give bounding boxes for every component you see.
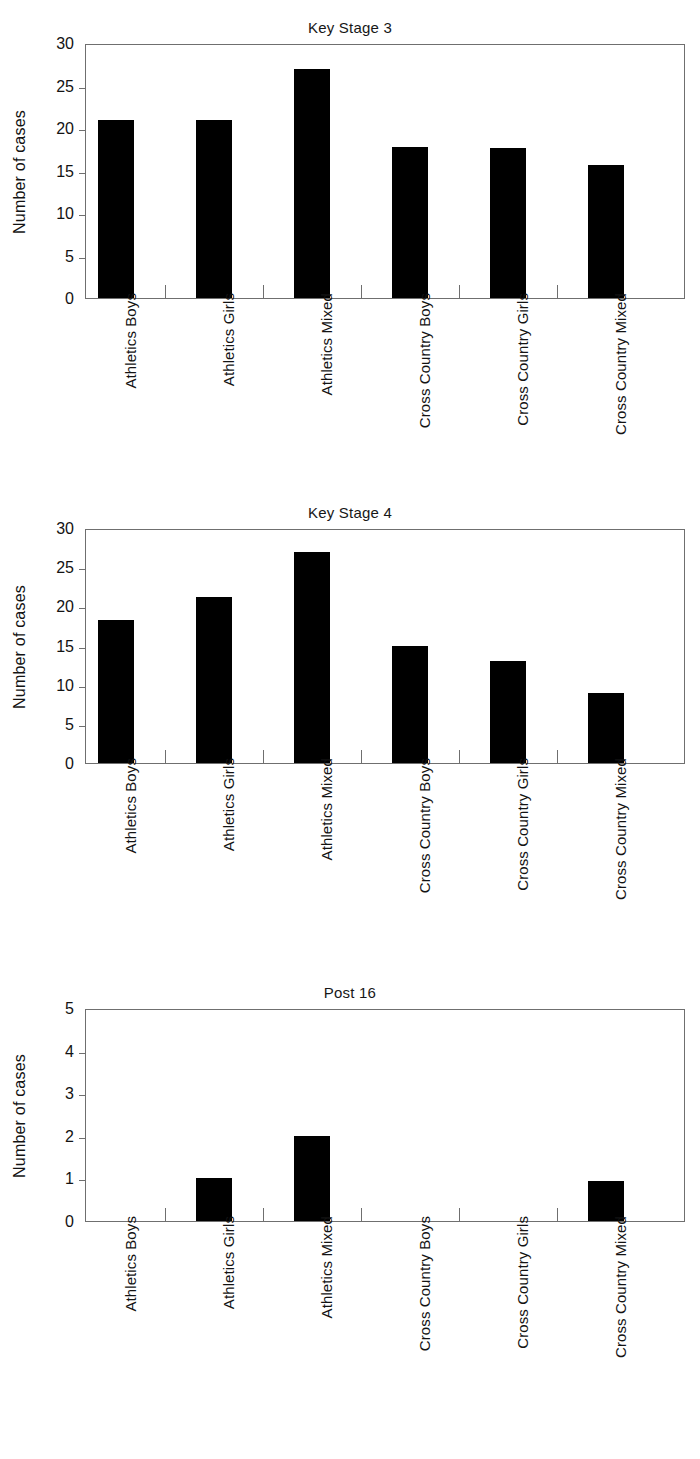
x-axis-label: Athletics Girls xyxy=(220,293,237,386)
y-tick-label: 0 xyxy=(65,755,74,773)
y-tick-label: 30 xyxy=(56,520,74,538)
y-axis-tick xyxy=(79,173,86,174)
x-axis-label: Cross Country Girls xyxy=(514,1216,531,1349)
x-axis-label: Cross Country Girls xyxy=(514,293,531,426)
y-tick-label: 0 xyxy=(65,290,74,308)
y-axis-label: Number of cases xyxy=(8,529,32,764)
y-tick-label: 10 xyxy=(56,677,74,695)
plot-area xyxy=(85,1009,685,1222)
x-axis-label: Athletics Mixed xyxy=(318,1216,335,1318)
y-tick-label: 10 xyxy=(56,205,74,223)
bar xyxy=(196,1178,232,1221)
bar xyxy=(98,120,134,299)
y-axis-tick xyxy=(79,1180,86,1181)
chart-title: Key Stage 4 xyxy=(0,503,700,529)
x-axis-label: Athletics Boys xyxy=(122,1216,139,1312)
x-axis-label: Athletics Boys xyxy=(122,293,139,389)
plot-area xyxy=(85,529,685,764)
y-axis-tick xyxy=(79,726,86,727)
x-axis-label: Athletics Mixed xyxy=(318,293,335,395)
chart-block-key-stage-4: Key Stage 4 Number of cases 051015202530… xyxy=(0,503,700,764)
bar xyxy=(196,597,232,763)
x-axis-labels: Athletics BoysAthletics GirlsAthletics M… xyxy=(85,1216,685,1406)
x-axis-label: Cross Country Boys xyxy=(416,1216,433,1351)
y-axis-label-text: Number of cases xyxy=(11,1054,29,1178)
x-axis-label: Cross Country Girls xyxy=(514,758,531,891)
y-tick-label: 25 xyxy=(56,78,74,96)
y-axis-tick xyxy=(79,648,86,649)
bar xyxy=(490,661,526,763)
bar xyxy=(294,69,330,299)
plot-row: Number of cases 051015202530 xyxy=(0,529,700,764)
x-axis-label: Athletics Girls xyxy=(220,758,237,851)
x-axis-labels: Athletics BoysAthletics GirlsAthletics M… xyxy=(85,758,685,943)
y-axis-label: Number of cases xyxy=(8,44,32,299)
x-axis-label: Athletics Boys xyxy=(122,758,139,854)
chart-title: Key Stage 3 xyxy=(0,18,700,44)
y-tick-labels: 051015202530 xyxy=(34,529,78,764)
x-axis-label: Cross Country Mixed xyxy=(612,1216,629,1358)
y-tick-label: 30 xyxy=(56,35,74,53)
y-tick-label: 4 xyxy=(65,1043,74,1061)
y-tick-label: 20 xyxy=(56,120,74,138)
y-tick-label: 25 xyxy=(56,559,74,577)
y-tick-label: 5 xyxy=(65,716,74,734)
plot-row: Number of cases 051015202530 xyxy=(0,44,700,299)
y-tick-label: 2 xyxy=(65,1128,74,1146)
bar xyxy=(98,620,134,763)
y-axis-tick xyxy=(79,687,86,688)
y-tick-labels: 012345 xyxy=(34,1009,78,1222)
bar xyxy=(294,1136,330,1221)
y-tick-label: 15 xyxy=(56,638,74,656)
chart-block-post-16: Post 16 Number of cases 012345 Athletics… xyxy=(0,983,700,1222)
y-tick-label: 1 xyxy=(65,1170,74,1188)
bar xyxy=(588,1181,624,1221)
x-axis-labels: Athletics BoysAthletics GirlsAthletics M… xyxy=(85,293,685,473)
x-axis-label: Cross Country Boys xyxy=(416,293,433,428)
plot-row: Number of cases 012345 xyxy=(0,1009,700,1222)
bar xyxy=(196,120,232,299)
y-tick-labels: 051015202530 xyxy=(34,44,78,299)
y-axis-tick xyxy=(79,569,86,570)
y-tick-label: 3 xyxy=(65,1085,74,1103)
chart-block-key-stage-3: Key Stage 3 Number of cases 051015202530… xyxy=(0,18,700,299)
x-axis-label: Cross Country Boys xyxy=(416,758,433,893)
plot-area xyxy=(85,44,685,299)
y-axis-tick xyxy=(79,608,86,609)
x-axis-label: Athletics Girls xyxy=(220,1216,237,1309)
bar xyxy=(490,148,526,298)
bar xyxy=(294,552,330,764)
y-axis-tick xyxy=(79,215,86,216)
bar xyxy=(392,147,428,298)
y-axis-tick xyxy=(79,130,86,131)
y-axis-tick xyxy=(79,1138,86,1139)
chart-title: Post 16 xyxy=(0,983,700,1009)
x-axis-label: Athletics Mixed xyxy=(318,758,335,860)
y-axis-label-text: Number of cases xyxy=(11,585,29,709)
y-tick-label: 5 xyxy=(65,1000,74,1018)
y-tick-label: 5 xyxy=(65,248,74,266)
y-tick-label: 15 xyxy=(56,163,74,181)
y-axis-tick xyxy=(79,1095,86,1096)
figure-page: Key Stage 3 Number of cases 051015202530… xyxy=(0,0,700,1459)
y-tick-label: 20 xyxy=(56,598,74,616)
y-axis-label: Number of cases xyxy=(8,1009,32,1222)
x-axis-label: Cross Country Mixed xyxy=(612,758,629,900)
y-axis-label-text: Number of cases xyxy=(11,110,29,234)
y-tick-label: 0 xyxy=(65,1213,74,1231)
bar xyxy=(588,693,624,764)
bar xyxy=(392,646,428,764)
x-axis-label: Cross Country Mixed xyxy=(612,293,629,435)
y-axis-tick xyxy=(79,258,86,259)
y-axis-tick xyxy=(79,1053,86,1054)
y-axis-tick xyxy=(79,88,86,89)
bar xyxy=(588,165,624,298)
